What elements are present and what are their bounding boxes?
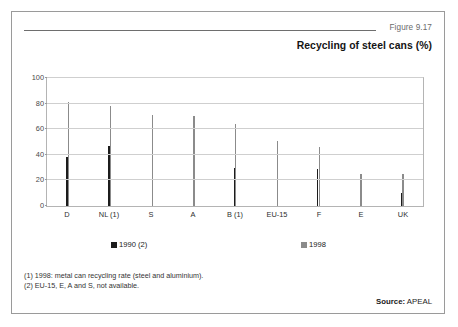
legend-item-1998: 1998 xyxy=(301,240,326,249)
legend-item-1990: 1990 (2) xyxy=(111,240,147,249)
x-axis-tick-label: S xyxy=(149,210,154,219)
x-axis-tick-label: F xyxy=(317,210,322,219)
x-axis-tick-label: A xyxy=(191,210,196,219)
source-label: Source: xyxy=(376,297,405,306)
y-axis-tick-mark xyxy=(45,103,47,104)
bar-group xyxy=(89,78,131,206)
plot-area: 020406080100 xyxy=(46,77,424,207)
source-value: APEAL xyxy=(407,297,432,306)
legend-label-1998: 1998 xyxy=(309,240,326,249)
chart-area: 020406080100 DNL (1)SAB (1)EU-15FEUK xyxy=(22,67,436,237)
figure-number: Figure 9.17 xyxy=(389,23,432,32)
x-axis-tick-label: E xyxy=(359,210,364,219)
x-axis-tick-label: NL (1) xyxy=(99,210,119,219)
figure-note-2: (2) EU-15, E, A and S, not available. xyxy=(24,281,203,291)
y-axis-tick-label: 40 xyxy=(36,149,44,158)
x-axis-tick-label: UK xyxy=(398,210,408,219)
y-axis-tick-label: 100 xyxy=(32,73,44,82)
gridline: 0 xyxy=(47,205,423,206)
legend-label-1990: 1990 (2) xyxy=(119,240,147,249)
header-rule xyxy=(24,30,376,31)
figure-source: Source: APEAL xyxy=(376,297,432,306)
figure-notes: (1) 1998: metal can recycling rate (stee… xyxy=(24,271,203,291)
y-axis-tick-mark xyxy=(45,154,47,155)
bar-1998 xyxy=(235,124,236,206)
gridline: 80 xyxy=(47,103,423,104)
bar-group xyxy=(214,78,256,206)
bars-layer xyxy=(47,78,423,206)
y-axis-tick-label: 60 xyxy=(36,124,44,133)
bar-1998 xyxy=(193,116,194,206)
y-axis-tick-label: 0 xyxy=(40,201,44,210)
legend-swatch-1990-icon xyxy=(111,242,117,248)
legend-swatch-1998-icon xyxy=(301,242,307,248)
y-axis-tick-mark xyxy=(45,77,47,78)
y-axis-tick-mark xyxy=(45,128,47,129)
bar-1998 xyxy=(110,106,111,206)
bar-group xyxy=(131,78,173,206)
x-axis-tick-label: D xyxy=(64,210,69,219)
bar-group xyxy=(256,78,298,206)
bar-group xyxy=(47,78,89,206)
bar-group xyxy=(381,78,423,206)
y-axis-tick-label: 80 xyxy=(36,98,44,107)
bar-1998 xyxy=(319,147,320,206)
bar-group xyxy=(339,78,381,206)
bar-group xyxy=(298,78,340,206)
figure-frame: Figure 9.17 Recycling of steel cans (%) … xyxy=(11,11,445,314)
gridline: 100 xyxy=(47,77,423,78)
x-axis-labels: DNL (1)SAB (1)EU-15FEUK xyxy=(46,210,424,224)
gridline: 20 xyxy=(47,179,423,180)
x-axis-tick-label: B (1) xyxy=(227,210,243,219)
gridline: 40 xyxy=(47,154,423,155)
figure-note-1: (1) 1998: metal can recycling rate (stee… xyxy=(24,271,203,281)
figure-title: Recycling of steel cans (%) xyxy=(297,40,432,51)
chart-legend: 1990 (2) 1998 xyxy=(12,240,444,256)
y-axis-tick-label: 20 xyxy=(36,175,44,184)
figure-header: Figure 9.17 Recycling of steel cans (%) xyxy=(12,12,444,58)
gridline: 60 xyxy=(47,128,423,129)
bar-1998 xyxy=(277,141,278,206)
x-axis-tick-label: EU-15 xyxy=(267,210,288,219)
y-axis-tick-mark xyxy=(45,205,47,206)
y-axis-tick-mark xyxy=(45,179,47,180)
bar-group xyxy=(172,78,214,206)
